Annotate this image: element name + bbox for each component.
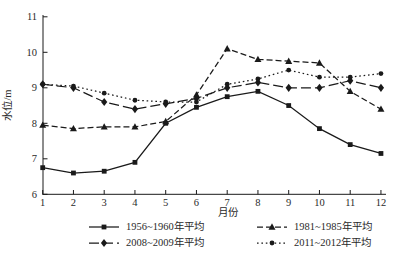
legend-square-line-icon <box>89 222 119 232</box>
x-tick-label: 3 <box>102 197 107 208</box>
legend-label: 1981~1985年平均 <box>294 220 372 233</box>
x-tick-label: 10 <box>314 197 325 208</box>
circle-marker-icon <box>256 77 261 82</box>
legend-item-3: 2008~2009年平均 <box>89 236 257 249</box>
series-line <box>43 70 381 102</box>
circle-marker-icon <box>133 98 138 103</box>
legend-triangle-line-icon <box>257 222 287 232</box>
x-tick-label: 7 <box>225 197 230 208</box>
circle-marker-icon <box>379 71 384 76</box>
legend-diamond-line-icon <box>89 238 119 248</box>
x-axis-title: 月份 <box>218 207 239 218</box>
x-tick-label: 8 <box>255 197 260 208</box>
x-tick-label: 6 <box>194 197 199 208</box>
square-marker-icon <box>40 165 45 170</box>
square-marker-icon <box>133 160 138 165</box>
triangle-marker-icon <box>377 105 384 111</box>
x-tick-label: 4 <box>132 197 138 208</box>
x-tick-label: 2 <box>71 197 76 208</box>
series-circle <box>40 68 383 105</box>
legend-item-4: 2011~2012年平均 <box>257 236 372 249</box>
square-marker-icon <box>194 105 199 110</box>
data-series <box>39 45 384 175</box>
y-tick-label: 9 <box>32 82 37 93</box>
square-marker-icon <box>379 151 384 156</box>
y-tick-label: 10 <box>27 47 38 58</box>
square-marker-icon <box>102 169 107 174</box>
x-tick-label: 12 <box>376 197 387 208</box>
x-tick-label: 11 <box>345 197 355 208</box>
circle-marker-icon <box>286 68 291 73</box>
axes: 67891011123456789101112 <box>27 11 387 207</box>
series-square <box>40 89 383 175</box>
x-tick-label: 9 <box>286 197 291 208</box>
triangle-marker-icon <box>39 121 46 127</box>
square-marker-icon <box>225 94 230 99</box>
circle-marker-icon <box>317 75 322 80</box>
triangle-marker-icon <box>254 56 261 62</box>
y-tick-label: 11 <box>27 11 37 22</box>
circle-marker-icon <box>270 240 275 245</box>
legend-item-1: 1956~1960年平均 <box>89 220 257 233</box>
x-tick-label: 5 <box>163 197 168 208</box>
square-marker-icon <box>71 171 76 176</box>
diamond-marker-icon <box>101 238 107 246</box>
square-marker-icon <box>256 89 261 94</box>
diamond-marker-icon <box>132 105 138 113</box>
square-marker-icon <box>102 224 107 229</box>
water-level-line-chart-figure: 67891011123456789101112 水位/m 月份 1956~196… <box>0 0 398 266</box>
circle-marker-icon <box>71 84 76 89</box>
legend-label: 1956~1960年平均 <box>126 220 204 233</box>
triangle-marker-icon <box>224 45 231 51</box>
series-line <box>43 91 381 173</box>
diamond-marker-icon <box>101 98 107 106</box>
square-marker-icon <box>348 142 353 147</box>
diamond-marker-icon <box>286 84 292 92</box>
legend-label: 2011~2012年平均 <box>294 236 371 249</box>
x-tick-label: 1 <box>40 197 45 208</box>
y-tick-label: 7 <box>32 153 37 164</box>
diamond-marker-icon <box>378 84 384 92</box>
chart-legend: 1956~1960年平均1981~1985年平均2008~2009年平均2011… <box>89 220 372 249</box>
circle-marker-icon <box>225 82 230 87</box>
circle-marker-icon <box>348 75 353 80</box>
circle-marker-icon <box>163 100 168 105</box>
series-diamond <box>40 77 384 114</box>
legend-item-2: 1981~1985年平均 <box>257 220 372 233</box>
square-marker-icon <box>286 103 291 108</box>
series-line <box>43 81 381 109</box>
series-line <box>43 49 381 129</box>
y-tick-label: 8 <box>32 118 37 129</box>
legend-circle-line-icon <box>257 238 287 248</box>
circle-marker-icon <box>194 100 199 105</box>
legend-label: 2008~2009年平均 <box>126 236 204 249</box>
circle-marker-icon <box>102 91 107 96</box>
y-tick-label: 6 <box>32 189 37 200</box>
y-axis-title: 水位/m <box>1 89 13 120</box>
square-marker-icon <box>317 126 322 131</box>
series-triangle <box>39 45 384 131</box>
circle-marker-icon <box>40 82 45 87</box>
diamond-marker-icon <box>316 84 322 92</box>
